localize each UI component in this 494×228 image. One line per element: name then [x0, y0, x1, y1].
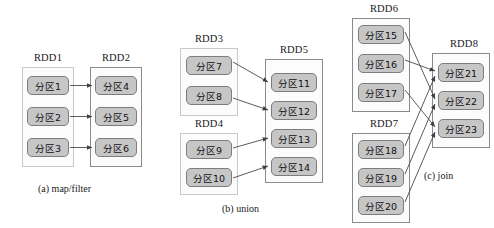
partition-box: 分区13 [271, 129, 317, 148]
rdd-title-rdd8: RDD8 [438, 38, 490, 49]
partition-box: 分区8 [186, 86, 232, 105]
partition-box: 分区14 [271, 157, 317, 176]
partition-box: 分区10 [186, 168, 232, 187]
edge-arrow [233, 138, 268, 148]
rdd-title-rdd4: RDD4 [183, 118, 235, 129]
partition-box: 分区3 [27, 138, 69, 157]
partition-box: 分区23 [438, 119, 484, 138]
partition-box: 分区15 [358, 25, 404, 44]
rdd-title-rdd2: RDD2 [90, 52, 142, 63]
partition-box: 分区19 [358, 168, 404, 187]
rdd-title-rdd6: RDD6 [358, 3, 410, 14]
rdd-title-rdd1: RDD1 [22, 52, 74, 63]
partition-box: 分区4 [95, 76, 137, 95]
edge-arrow [233, 62, 268, 82]
partition-box: 分区16 [358, 54, 404, 73]
rdd-operations-diagram: RDD1 分区1 分区2 分区3 RDD2 分区4 分区5 分区6 (a) ma… [0, 0, 494, 228]
partition-box: 分区7 [186, 56, 232, 75]
edge-arrow [233, 98, 268, 110]
panel-caption-map-filter: (a) map/filter [38, 183, 91, 194]
panel-caption-join: (c) join [424, 170, 453, 181]
partition-box: 分区22 [438, 91, 484, 110]
partition-box: 分区5 [95, 107, 137, 126]
partition-box: 分区17 [358, 83, 404, 102]
partition-box: 分区11 [271, 73, 317, 92]
rdd-title-rdd3: RDD3 [183, 33, 235, 44]
panel-caption-union: (b) union [222, 203, 259, 214]
partition-box: 分区1 [27, 76, 69, 95]
partition-box: 分区21 [438, 63, 484, 82]
partition-box: 分区2 [27, 107, 69, 126]
rdd-title-rdd5: RDD5 [268, 44, 320, 55]
rdd-title-rdd7: RDD7 [358, 118, 410, 129]
partition-box: 分区6 [95, 138, 137, 157]
partition-box: 分区18 [358, 140, 404, 159]
partition-box: 分区9 [186, 140, 232, 159]
partition-box: 分区20 [358, 196, 404, 215]
edge-arrow [233, 166, 268, 178]
partition-box: 分区12 [271, 101, 317, 120]
